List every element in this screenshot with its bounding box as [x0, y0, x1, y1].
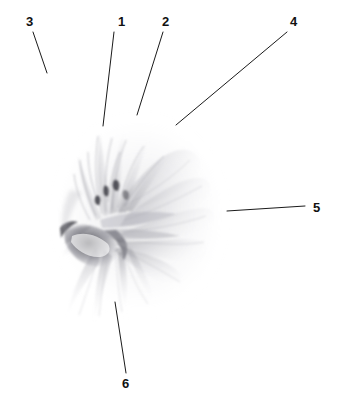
- figure-panel: 123456: [0, 0, 339, 410]
- callout-label-3: 3: [26, 15, 33, 28]
- leader-line-1: [103, 32, 114, 126]
- callout-label-6: 6: [122, 377, 129, 390]
- botanical-illustration: [48, 110, 232, 322]
- leader-line-5: [227, 206, 305, 211]
- callout-label-4: 4: [290, 15, 297, 28]
- leader-line-2: [137, 32, 163, 115]
- callout-label-5: 5: [313, 201, 320, 214]
- leader-line-3: [33, 32, 47, 73]
- callout-label-1: 1: [118, 15, 125, 28]
- callout-label-2: 2: [162, 15, 169, 28]
- illustration-canvas: [0, 0, 339, 410]
- leader-line-4: [176, 32, 287, 125]
